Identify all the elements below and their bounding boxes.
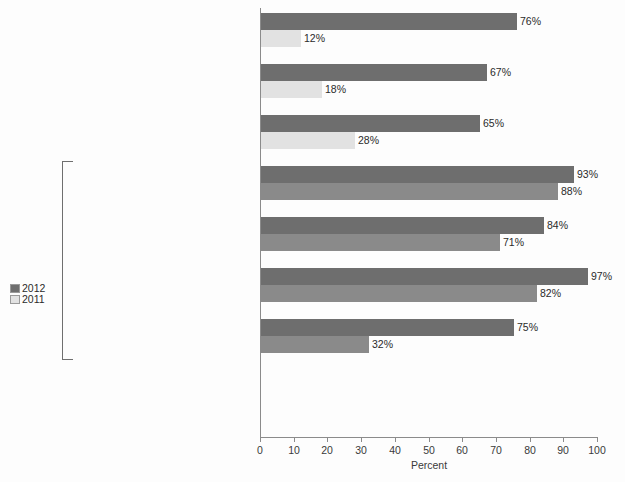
bar-value-label: 88%: [561, 183, 582, 200]
bar: [261, 336, 369, 353]
x-axis-title: Percent: [260, 459, 598, 471]
x-tick-label: 70: [490, 444, 502, 456]
bar-value-label: 71%: [503, 234, 524, 251]
bar-value-label: 18%: [325, 81, 346, 98]
bar: [261, 268, 588, 285]
x-tick: [361, 437, 362, 442]
bar: [261, 285, 537, 302]
bar: [261, 319, 514, 336]
x-tick: [530, 437, 531, 442]
bar: [261, 234, 500, 251]
legend-label: 2011: [22, 294, 45, 304]
bar-value-label: 28%: [358, 132, 379, 149]
bar-value-label: 75%: [517, 319, 538, 336]
bar-value-label: 32%: [372, 336, 393, 353]
bar: [261, 81, 322, 98]
bar-chart: 0102030405060708090100 Percent 76%12%67%…: [0, 0, 625, 482]
x-tick-label: 60: [456, 444, 468, 456]
x-tick: [429, 437, 430, 442]
bar-value-label: 67%: [490, 64, 511, 81]
bar: [261, 13, 517, 30]
legend-item[interactable]: 2012: [10, 283, 45, 293]
x-tick: [496, 437, 497, 442]
x-tick: [597, 437, 598, 442]
legend-label: 2012: [22, 283, 45, 293]
legend-swatch-icon: [10, 295, 20, 304]
bar: [261, 217, 544, 234]
bar-value-label: 84%: [547, 217, 568, 234]
bar: [261, 166, 574, 183]
x-tick-label: 0: [257, 444, 263, 456]
chart-legend: 20122011: [10, 283, 45, 305]
bar: [261, 132, 355, 149]
bar: [261, 64, 487, 81]
x-tick-label: 50: [423, 444, 435, 456]
bar-value-label: 76%: [520, 13, 541, 30]
x-tick: [294, 437, 295, 442]
bar: [261, 183, 558, 200]
x-tick-label: 100: [588, 444, 606, 456]
bar-value-label: 12%: [304, 30, 325, 47]
legend-swatch-icon: [10, 284, 20, 293]
x-tick-label: 10: [288, 444, 300, 456]
group-bracket: [62, 161, 73, 360]
bar: [261, 30, 301, 47]
x-tick-label: 30: [355, 444, 367, 456]
x-tick: [395, 437, 396, 442]
bar-value-label: 65%: [483, 115, 504, 132]
x-tick: [462, 437, 463, 442]
x-tick-label: 80: [524, 444, 536, 456]
x-tick: [327, 437, 328, 442]
bar-value-label: 97%: [591, 268, 612, 285]
legend-item[interactable]: 2011: [10, 294, 45, 304]
bar: [261, 115, 480, 132]
x-tick: [563, 437, 564, 442]
x-tick-label: 40: [389, 444, 401, 456]
bar-value-label: 82%: [540, 285, 561, 302]
bar-value-label: 93%: [577, 166, 598, 183]
x-tick-label: 20: [321, 444, 333, 456]
x-tick-label: 90: [557, 444, 569, 456]
x-tick: [260, 437, 261, 442]
